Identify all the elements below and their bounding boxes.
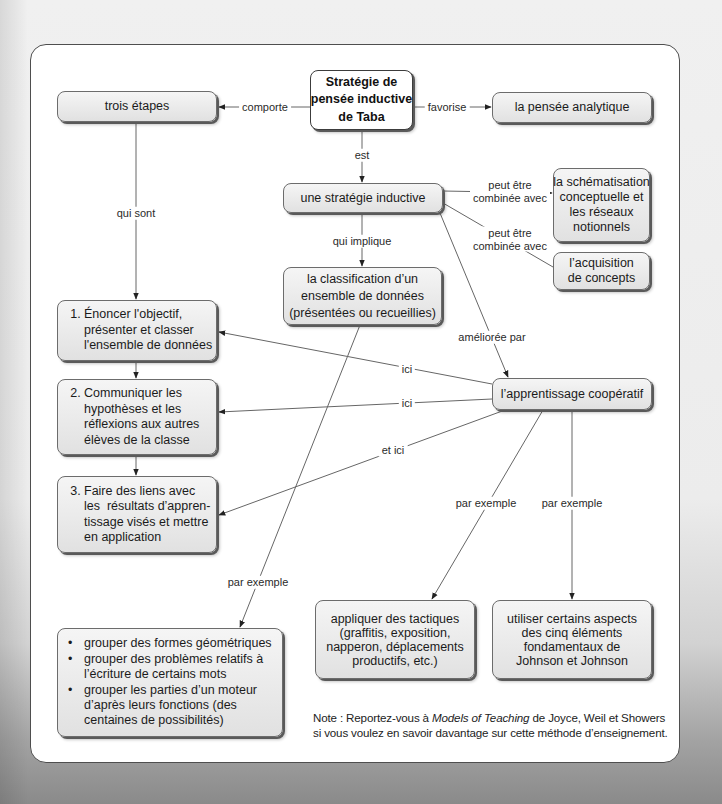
- edge-label-par-exemple-exemples: par exemple: [225, 576, 292, 589]
- edge-label-par-exemple-tactiques: par exemple: [453, 497, 520, 510]
- edge-label-peut-etre-combinee-2: peut être combinée avec: [470, 227, 550, 252]
- footnote-line-1: Note : Reportez-vous à Models of Teachin…: [313, 710, 675, 725]
- node-classification: la classification d’un ensemble de donné…: [283, 267, 442, 325]
- bullet-icon: •: [68, 652, 84, 683]
- list-item: • grouper les parties d’un moteur d’aprè…: [68, 683, 257, 729]
- edge-label-favorise: favorise: [425, 101, 470, 114]
- edge-label-qui-implique: qui implique: [330, 235, 395, 248]
- edge-label-et-ici: et ici: [379, 444, 408, 457]
- node-step-2: 2. Communiquer les hypothèses et les réf…: [57, 379, 217, 455]
- list-item: • grouper des formes géométriques: [68, 636, 272, 651]
- footnote: Note : Reportez-vous à Models of Teachin…: [313, 710, 675, 740]
- edge-label-par-exemple-johnson: par exemple: [539, 497, 606, 510]
- edge-cooperatif-step1: [219, 332, 492, 384]
- node-pensee-analytique: la pensée analytique: [492, 92, 652, 123]
- edge-label-qui-sont: qui sont: [114, 207, 159, 220]
- bullet-icon: •: [68, 683, 84, 729]
- edge-label-amelioree-par: améliorée par: [455, 331, 528, 344]
- edge-label-ici-1: ici: [399, 363, 415, 376]
- step-number: 2.: [67, 386, 84, 448]
- node-step-3: 3. Faire des liens avec les résultats d’…: [57, 476, 217, 553]
- edge-label-peut-etre-combinee-1: peut être combinée avec: [470, 179, 550, 204]
- node-acquisition-concepts: l’acquisition de concepts: [553, 252, 650, 290]
- node-exemples-list: • grouper des formes géométriques • grou…: [57, 628, 283, 737]
- edge-label-comporte: comporte: [239, 101, 291, 114]
- node-johnson: utiliser certains aspects des cinq éléme…: [492, 600, 652, 679]
- footnote-line-2: si vous voulez en savoir davantage sur c…: [313, 725, 675, 740]
- edge-cooperatif-step2: [219, 399, 492, 412]
- node-strategie-inductive: une stratégie inductive: [283, 183, 443, 213]
- node-schematisation: la schématisation conceptuelle et les ré…: [553, 168, 650, 242]
- bullet-icon: •: [68, 636, 84, 651]
- node-apprentissage-cooperatif: l’apprentissage coopératif: [492, 378, 652, 410]
- node-tactiques: appliquer des tactiques (graffitis, expo…: [315, 600, 475, 679]
- step-number: 3.: [67, 484, 84, 546]
- step-number: 1.: [67, 307, 84, 354]
- edge-label-est: est: [352, 149, 373, 162]
- book-title: Models of Teaching: [432, 711, 529, 724]
- edge-label-ici-2: ici: [399, 397, 415, 410]
- node-trois-etapes: trois étapes: [57, 91, 217, 122]
- node-strategie-taba: Stratégie de pensée inductive de Taba: [310, 70, 413, 130]
- node-step-1: 1. Énoncer l'objectif, présenter et clas…: [57, 300, 217, 361]
- list-item: • grouper des problèmes relatifs à l’écr…: [68, 652, 263, 683]
